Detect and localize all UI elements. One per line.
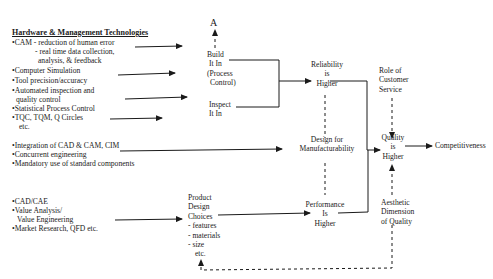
list-item: •TQC, TQM, Q Circles bbox=[12, 113, 83, 122]
node-performance: Performance Is Higher bbox=[299, 200, 351, 228]
node-product-design-choices: Product Design Choices - features - mate… bbox=[188, 193, 220, 259]
list-item: •Integration of CAD & CAM, CIM bbox=[12, 141, 119, 150]
list-item: etc. bbox=[19, 122, 30, 131]
node-design-for-manufacturability: Design for Manufacturability bbox=[292, 135, 362, 154]
list-item: •Market Research, QFD etc. bbox=[12, 224, 98, 233]
node-quality: Quality is Higher bbox=[378, 133, 408, 161]
diagram-canvas: Hardware & Management Technologies •CAM … bbox=[0, 0, 493, 279]
node-build-it-in: Build It In (Process Control) bbox=[207, 50, 236, 88]
list-item: analysis, & feedback bbox=[38, 56, 101, 65]
node-role-of-customer-service: Role of Customer Service bbox=[379, 66, 409, 94]
node-competitiveness: Competitiveness bbox=[435, 141, 486, 150]
node-aesthetic-dimension: Aesthetic Dimension of Quality bbox=[381, 198, 414, 226]
list-item: •Tool precision/accuracy bbox=[12, 76, 87, 85]
list-item: •CAM - reduction of human error bbox=[12, 38, 114, 47]
list-item: •Statistical Process Control bbox=[12, 104, 95, 113]
list-item: •Mandatory use of standard components bbox=[12, 159, 134, 168]
list-item: •Value Analysis/ bbox=[12, 206, 62, 215]
node-inspect-it-in: Inspect It In bbox=[209, 100, 231, 119]
list-item: •Concurrent engineering bbox=[12, 150, 87, 159]
a-marker: A bbox=[210, 18, 217, 27]
list-item: Value Engineering bbox=[17, 215, 73, 224]
list-item: - real time data collection, bbox=[35, 47, 115, 56]
node-reliability: Reliability is Higher bbox=[305, 60, 349, 88]
list-item: •CAD/CAE bbox=[12, 197, 48, 206]
heading-technologies: Hardware & Management Technologies bbox=[12, 28, 148, 37]
list-item: quality control bbox=[16, 95, 61, 104]
list-item: •Computer Simulation bbox=[12, 66, 80, 75]
list-item: •Automated inspection and bbox=[12, 86, 94, 95]
